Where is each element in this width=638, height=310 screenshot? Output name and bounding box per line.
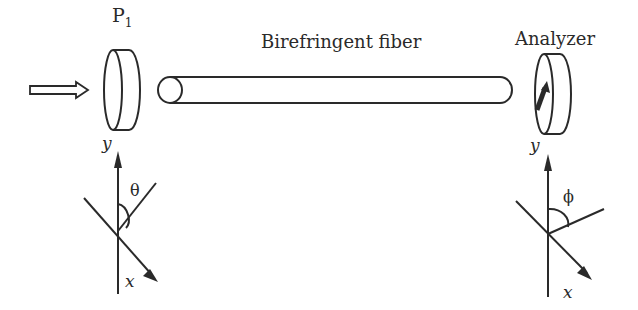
- left-y-axis-label: y: [102, 133, 112, 153]
- analyzer-label: Analyzer: [515, 28, 595, 49]
- phi-label: ϕ: [563, 187, 574, 206]
- right-y-axis-label: y: [530, 135, 540, 155]
- analyzer-axis-arrow-icon: [537, 81, 550, 110]
- right-axes: [516, 154, 604, 297]
- polarizer-label: P1: [112, 4, 132, 30]
- polarizer-disk: [104, 50, 140, 130]
- right-x-axis-label: x: [563, 282, 573, 302]
- left-x-axis-label: x: [125, 271, 135, 291]
- left-axes: [84, 151, 158, 294]
- input-light-arrow-icon: [30, 82, 88, 98]
- fiber-label: Birefringent fiber: [261, 31, 421, 52]
- birefringent-fiber: [158, 77, 512, 103]
- polarizer-label-text: P: [112, 4, 125, 26]
- diagram-canvas: P1 Birefringent fiber Analyzer y θ x y ϕ…: [0, 0, 638, 310]
- polarizer-label-subscript: 1: [125, 16, 133, 30]
- theta-label: θ: [130, 181, 140, 200]
